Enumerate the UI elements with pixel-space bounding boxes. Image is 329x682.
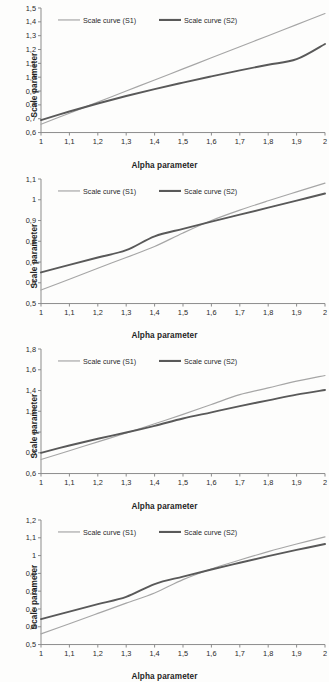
x-tick-label: 1,2 [93, 648, 103, 657]
x-tick-label: 1,2 [93, 478, 103, 487]
x-tick-label: 2 [323, 137, 327, 146]
y-tick-label: 1 [32, 195, 36, 204]
y-tick-label: 1,3 [26, 31, 36, 40]
y-tick-label: 1,8 [26, 345, 36, 354]
legend-label-s1: Scale curve (S1) [83, 528, 136, 536]
x-tick-label: 1,9 [291, 137, 301, 146]
plot-area-4: 0,50,60,70,80,911,11,211,11,21,31,41,51,… [41, 520, 325, 659]
chart-svg-3: 0,60,811,21,41,61,811,11,21,31,41,51,61,… [41, 349, 325, 488]
x-tick-label: 1,1 [64, 478, 74, 487]
legend-label-s1: Scale curve (S1) [83, 17, 136, 25]
x-axis-title-2: Alpha parameter [0, 331, 329, 340]
legend-label-s2: Scale curve (S2) [184, 358, 237, 366]
x-tick-label: 1,6 [206, 137, 216, 146]
y-tick-label: 1,6 [26, 365, 36, 374]
series-line-s1 [41, 536, 325, 633]
chart-svg-1: 0,60,70,80,91,01,11,21,31,41,511,11,21,3… [41, 8, 325, 147]
x-tick-label: 1 [39, 478, 43, 487]
x-tick-label: 1,4 [149, 648, 159, 657]
legend-label-s2: Scale curve (S2) [184, 528, 237, 536]
x-tick-label: 1,3 [121, 137, 131, 146]
legend-label-s2: Scale curve (S2) [184, 187, 237, 195]
x-tick-label: 1 [39, 137, 43, 146]
x-tick-label: 1,5 [178, 648, 188, 657]
x-tick-label: 1,7 [235, 478, 245, 487]
x-tick-label: 1,4 [149, 478, 159, 487]
x-tick-label: 1,9 [291, 648, 301, 657]
x-tick-label: 1,1 [64, 307, 74, 316]
y-tick-label: 0,6 [26, 469, 36, 478]
y-tick-label: 1,2 [26, 407, 36, 416]
y-tick-label: 1,2 [26, 515, 36, 524]
x-tick-label: 1,4 [149, 307, 159, 316]
y-tick-label: 1,1 [26, 174, 36, 183]
x-tick-label: 1,9 [291, 307, 301, 316]
x-tick-label: 2 [323, 648, 327, 657]
x-tick-label: 1,2 [93, 307, 103, 316]
x-tick-label: 2 [323, 478, 327, 487]
x-tick-label: 1,4 [149, 137, 159, 146]
x-axis-title-1: Alpha parameter [0, 161, 329, 170]
chart-panel-1: Scale parameter 0,60,70,80,91,01,11,21,3… [0, 0, 329, 171]
legend-label-s1: Scale curve (S1) [83, 187, 136, 195]
plot-area-1: 0,60,70,80,91,01,11,21,31,41,511,11,21,3… [41, 8, 325, 147]
x-tick-label: 1,7 [235, 648, 245, 657]
x-axis-title-4: Alpha parameter [0, 672, 329, 681]
x-tick-label: 1,7 [235, 307, 245, 316]
y-tick-label: 0,5 [26, 640, 36, 649]
chart-panel-3: Scale parameter 0,60,811,21,41,61,811,11… [0, 341, 329, 512]
series-line-s2 [41, 390, 325, 453]
chart-svg-4: 0,50,60,70,80,911,11,211,11,21,31,41,51,… [41, 520, 325, 659]
x-tick-label: 2 [323, 307, 327, 316]
x-tick-label: 1,3 [121, 478, 131, 487]
y-tick-label: 0,9 [26, 568, 36, 577]
chart-svg-2: 0,50,60,70,80,911,111,11,21,31,41,51,61,… [41, 179, 325, 318]
y-tick-label: 0,8 [26, 448, 36, 457]
y-tick-label: 0,5 [26, 299, 36, 308]
y-tick-label: 0,8 [26, 586, 36, 595]
y-tick-label: 0,7 [26, 257, 36, 266]
legend-label-s1: Scale curve (S1) [83, 358, 136, 366]
y-tick-label: 1 [32, 551, 36, 560]
x-tick-label: 1,8 [263, 478, 273, 487]
x-tick-label: 1,7 [235, 137, 245, 146]
x-tick-label: 1,2 [93, 137, 103, 146]
y-tick-label: 0,8 [26, 100, 36, 109]
y-tick-label: 0,7 [26, 114, 36, 123]
y-tick-label: 0,6 [26, 128, 36, 137]
x-tick-label: 1,6 [206, 478, 216, 487]
x-tick-label: 1,9 [291, 478, 301, 487]
y-tick-label: 0,9 [26, 216, 36, 225]
y-tick-label: 1,1 [26, 59, 36, 68]
y-tick-label: 1,1 [26, 533, 36, 542]
x-tick-label: 1,3 [121, 307, 131, 316]
x-tick-label: 1,6 [206, 307, 216, 316]
x-tick-label: 1,8 [263, 648, 273, 657]
y-tick-label: 0,7 [26, 604, 36, 613]
series-line-s1 [41, 375, 325, 459]
x-tick-label: 1,5 [178, 478, 188, 487]
chart-panel-2: Scale parameter 0,50,60,70,80,911,111,11… [0, 171, 329, 342]
chart-panel-4: Scale parameter 0,50,60,70,80,911,11,211… [0, 512, 329, 682]
y-tick-label: 0,8 [26, 236, 36, 245]
x-tick-label: 1,1 [64, 137, 74, 146]
x-tick-label: 1,5 [178, 307, 188, 316]
series-line-s1 [41, 183, 325, 290]
x-tick-label: 1,5 [178, 137, 188, 146]
y-tick-label: 0,6 [26, 278, 36, 287]
y-tick-label: 0,6 [26, 622, 36, 631]
figure-sheet: Scale parameter 0,60,70,80,91,01,11,21,3… [0, 0, 329, 682]
x-tick-label: 1 [39, 307, 43, 316]
y-tick-label: 1,5 [26, 4, 36, 13]
plot-area-2: 0,50,60,70,80,911,111,11,21,31,41,51,61,… [41, 179, 325, 318]
x-tick-label: 1,3 [121, 648, 131, 657]
y-tick-label: 1,2 [26, 45, 36, 54]
x-tick-label: 1,8 [263, 137, 273, 146]
x-tick-label: 1,1 [64, 648, 74, 657]
x-tick-label: 1 [39, 648, 43, 657]
series-line-s2 [41, 544, 325, 619]
legend-label-s2: Scale curve (S2) [184, 17, 237, 25]
x-tick-label: 1,6 [206, 648, 216, 657]
y-tick-label: 1 [32, 428, 36, 437]
x-tick-label: 1,8 [263, 307, 273, 316]
